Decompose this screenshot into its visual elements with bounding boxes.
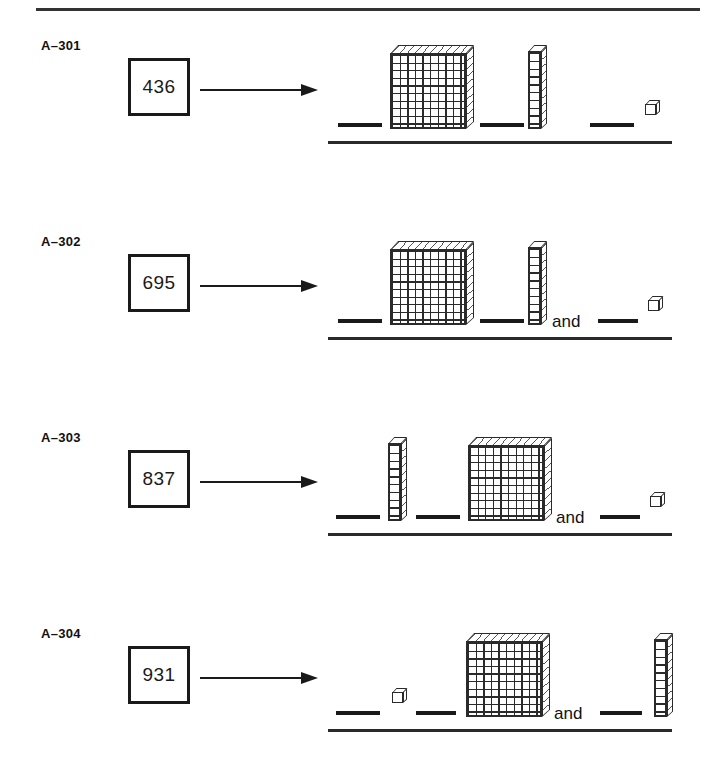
rod-right-face [401,438,407,521]
ones-cube-block [392,688,407,704]
problem-row: A–304931and [0,602,712,765]
answer-blank[interactable] [336,711,380,715]
answer-blank[interactable] [416,711,456,715]
rod-right-face [667,634,673,717]
cube-front-face [645,104,656,115]
rod-right-face [541,242,547,325]
top-rule-divider [36,8,700,11]
rod-front-face [528,51,541,129]
number-box-value: 695 [142,272,175,294]
answer-blank[interactable] [336,515,380,519]
rod-front-face [654,639,667,717]
answer-blank[interactable] [480,123,524,127]
right-arrow-icon [200,84,320,96]
answer-blank[interactable] [416,515,460,519]
arrow-shaft [200,285,303,287]
ones-cube-block [650,492,665,508]
right-arrow-icon [200,476,320,488]
rod-front-face [528,247,541,325]
and-connector-text: and [556,509,584,526]
answer-area: and [328,210,678,340]
hundreds-flat-block [390,45,474,129]
number-box: 931 [128,646,190,704]
answer-baseline [328,141,672,144]
hundreds-flat-block [390,241,474,325]
flat-right-face [466,242,474,325]
problem-row: A–302695and [0,210,712,400]
problem-row: A–301436 [0,14,712,204]
number-box: 837 [128,450,190,508]
problem-id-label: A–304 [41,626,81,641]
ones-cube-block [645,100,660,116]
answer-blank[interactable] [600,515,640,519]
problem-row: A–303837and [0,406,712,596]
cube-front-face [650,496,661,507]
rod-right-face [541,46,547,129]
cube-right-face [659,296,663,311]
answer-blank[interactable] [590,123,634,127]
arrow-head [301,84,318,96]
arrow-shaft [200,89,303,91]
arrow-head [301,672,318,684]
cube-front-face [392,692,403,703]
worksheet-page: { "page": { "title": "Base-Ten Blocks Pl… [0,0,712,765]
arrow-shaft [200,677,303,679]
number-box-value: 436 [142,76,175,98]
flat-front-face [466,641,542,717]
flat-front-face [390,53,466,129]
right-arrow-icon [200,280,320,292]
number-box: 436 [128,58,190,116]
tens-rod-block [388,437,406,521]
rod-front-face [388,443,401,521]
and-connector-text: and [552,313,580,330]
tens-rod-block [654,633,672,717]
flat-front-face [390,249,466,325]
hundreds-flat-block [468,437,552,521]
answer-baseline [328,533,672,536]
problem-id-label: A–302 [41,234,81,249]
flat-right-face [466,46,474,129]
cube-right-face [403,688,407,703]
answer-baseline [328,729,672,732]
right-arrow-icon [200,672,320,684]
flat-front-face [468,445,544,521]
cube-right-face [661,492,665,507]
answer-blank[interactable] [600,711,642,715]
cube-right-face [656,100,660,115]
tens-rod-block [528,241,546,325]
answer-blank[interactable] [338,123,382,127]
answer-blank[interactable] [598,319,638,323]
problem-id-label: A–301 [41,38,81,53]
arrow-shaft [200,481,303,483]
problem-id-label: A–303 [41,430,81,445]
arrow-head [301,476,318,488]
number-box-value: 931 [142,664,175,686]
flat-right-face [542,634,550,717]
arrow-head [301,280,318,292]
answer-blank[interactable] [480,319,524,323]
answer-area [328,14,678,144]
ones-cube-block [648,296,663,312]
answer-area: and [328,602,678,732]
answer-baseline [328,337,672,340]
answer-area: and [328,406,678,536]
answer-blank[interactable] [338,319,382,323]
cube-front-face [648,300,659,311]
flat-right-face [544,438,552,521]
number-box-value: 837 [142,468,175,490]
number-box: 695 [128,254,190,312]
tens-rod-block [528,45,546,129]
and-connector-text: and [554,705,582,722]
hundreds-flat-block [466,633,550,717]
